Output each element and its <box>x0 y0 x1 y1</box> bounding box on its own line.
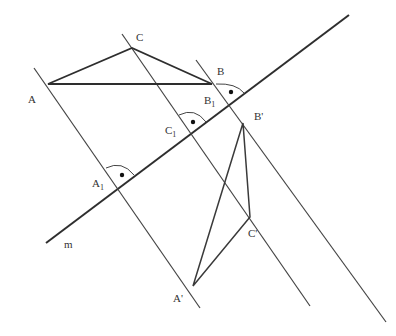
right-angle-mark-a1 <box>106 165 134 177</box>
label-m: m <box>64 239 73 250</box>
label-b1-subscript: 1 <box>211 100 215 109</box>
label-b-prime: B' <box>254 111 263 122</box>
triangle-abc <box>48 48 212 84</box>
projection-line-a <box>34 68 200 308</box>
triangle-a-prime-b-prime-c-prime <box>193 123 250 286</box>
label-a1: A1 <box>92 178 104 192</box>
label-a: A <box>28 94 36 105</box>
label-c-prime: C' <box>248 228 257 239</box>
label-a-prime: A' <box>173 293 183 304</box>
geometry-figure: A C B B1 C1 A1 B' C' A' m <box>0 0 396 336</box>
label-b: B <box>217 66 224 77</box>
projection-line-c <box>122 34 310 306</box>
label-a1-text: A <box>92 177 100 189</box>
projection-line-b <box>196 60 386 322</box>
label-a1-subscript: 1 <box>100 183 104 192</box>
label-c1: C1 <box>165 125 176 139</box>
label-b1: B1 <box>204 95 215 109</box>
figure-canvas <box>0 0 396 336</box>
label-c: C <box>136 32 143 43</box>
label-c1-subscript: 1 <box>172 130 176 139</box>
